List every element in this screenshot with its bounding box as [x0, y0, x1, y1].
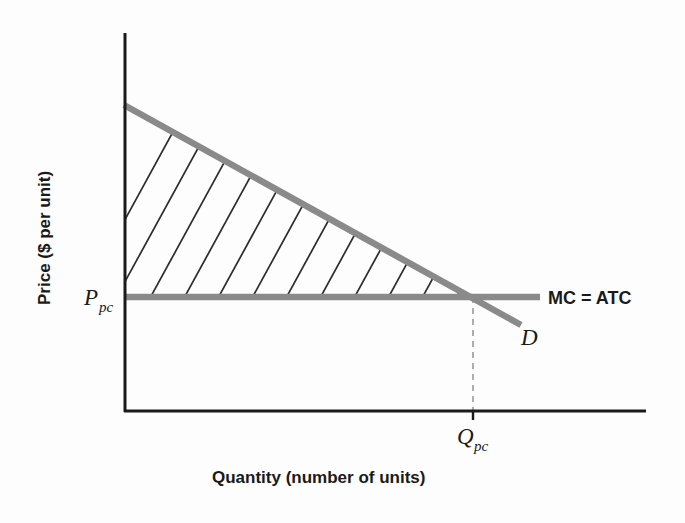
economics-chart: Price ($ per unit) Quantity (number of u… [0, 0, 685, 523]
price-subscript: pc [98, 299, 114, 315]
price-symbol: P [83, 285, 98, 310]
y-axis-title: Price ($ per unit) [35, 171, 54, 305]
quantity-symbol: Q [457, 424, 474, 449]
figure-background [0, 0, 685, 523]
demand-curve-label: D [520, 325, 538, 350]
figure-container: Price ($ per unit) Quantity (number of u… [0, 0, 685, 523]
mc-atc-curve-label: MC = ATC [548, 288, 632, 308]
quantity-subscript: pc [473, 438, 489, 454]
x-axis-title: Quantity (number of units) [212, 468, 425, 487]
